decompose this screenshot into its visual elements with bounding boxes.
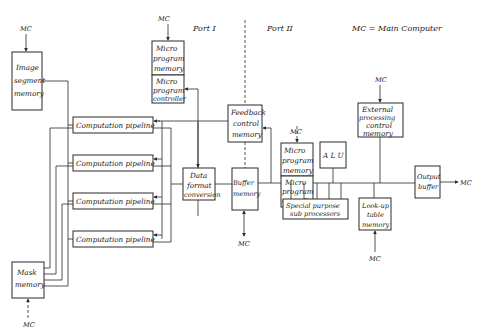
computation-pipeline-3: Computation pipeline xyxy=(73,193,155,209)
computation-pipeline-4: Computation pipeline xyxy=(73,231,155,247)
svg-text:program: program xyxy=(282,156,314,165)
svg-text:Computation pipeline: Computation pipeline xyxy=(76,159,155,168)
svg-text:segment: segment xyxy=(14,76,45,85)
micro-program-left-block: MC Micro program memory Micro program co… xyxy=(152,15,187,103)
computation-pipeline-2: Computation pipeline xyxy=(73,155,155,171)
svg-text:program: program xyxy=(153,54,185,63)
system-block-diagram: Port I Port II MC = Main Computer MC Ima… xyxy=(0,0,478,331)
svg-text:memory: memory xyxy=(154,64,185,73)
svg-text:memory: memory xyxy=(362,221,390,229)
output-buffer-block: Output buffer xyxy=(415,166,441,198)
svg-text:MC: MC xyxy=(22,321,35,329)
svg-text:control: control xyxy=(233,119,259,128)
data-format-conversion-block: Data format conversion xyxy=(183,168,220,200)
svg-text:Feedback: Feedback xyxy=(230,108,266,117)
svg-text:Data: Data xyxy=(189,171,207,180)
svg-text:table: table xyxy=(367,211,384,219)
svg-text:memory: memory xyxy=(15,280,46,289)
svg-text:memory: memory xyxy=(283,166,314,175)
external-processing-control-memory-block: MC External processing control memory xyxy=(358,76,403,138)
svg-text:conversion: conversion xyxy=(184,191,220,199)
svg-text:MC: MC xyxy=(374,76,387,84)
svg-text:Image: Image xyxy=(15,63,39,72)
svg-text:Micro: Micro xyxy=(155,77,178,86)
image-segment-memory-block: MC Image segment memory xyxy=(12,25,45,110)
svg-text:Special purpose: Special purpose xyxy=(286,202,340,210)
svg-text:MC: MC xyxy=(237,240,250,248)
svg-text:sub processors: sub processors xyxy=(290,210,341,218)
svg-text:MC: MC xyxy=(368,255,381,263)
svg-text:External: External xyxy=(361,105,393,114)
svg-text:memory: memory xyxy=(363,129,394,138)
svg-text:MC: MC xyxy=(459,179,472,187)
svg-text:Computation pipeline: Computation pipeline xyxy=(76,197,155,206)
mc-label: MC xyxy=(19,25,32,33)
port-1-label: Port I xyxy=(192,24,216,33)
svg-text:Computation pipeline: Computation pipeline xyxy=(76,235,155,244)
svg-text:MC: MC xyxy=(157,15,170,23)
svg-text:A L U: A L U xyxy=(322,151,345,160)
svg-text:memory: memory xyxy=(14,89,45,98)
micro-program-right-block: MC Micro program memory Micro program co… xyxy=(281,126,316,207)
svg-text:program: program xyxy=(153,86,185,95)
svg-text:MC: MC xyxy=(289,128,302,136)
special-purpose-sub-processors-block: Special purpose sub processors xyxy=(283,199,348,219)
svg-text:format: format xyxy=(186,181,212,190)
svg-text:Mask: Mask xyxy=(16,268,37,277)
svg-text:memory: memory xyxy=(233,190,261,198)
svg-text:memory: memory xyxy=(232,130,263,139)
svg-text:program: program xyxy=(282,187,314,196)
svg-text:Output: Output xyxy=(417,173,441,181)
port-2-label: Port II xyxy=(266,24,294,33)
feedback-control-memory-block: Feedback control memory xyxy=(228,105,266,142)
svg-text:Look-up: Look-up xyxy=(361,202,390,210)
svg-text:buffer: buffer xyxy=(418,183,439,191)
svg-text:Micro: Micro xyxy=(283,146,306,155)
look-up-table-memory-block: Look-up table memory MC xyxy=(359,198,391,263)
buffer-memory-block: Buffer memory xyxy=(232,168,261,210)
svg-text:Computation pipeline: Computation pipeline xyxy=(76,121,155,130)
svg-text:controller: controller xyxy=(153,95,187,103)
legend-text: MC = Main Computer xyxy=(351,24,443,33)
computation-pipeline-1: Computation pipeline xyxy=(73,117,155,133)
svg-text:Micro: Micro xyxy=(155,44,178,53)
svg-text:Buffer: Buffer xyxy=(232,179,255,187)
mask-memory-block: Mask memory MC xyxy=(12,262,46,329)
alu-block: A L U xyxy=(320,142,346,168)
image-memory-link xyxy=(42,81,68,248)
